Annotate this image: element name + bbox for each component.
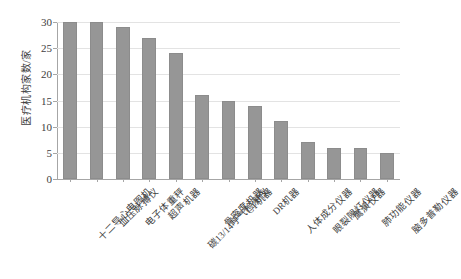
x-axis-tick-mark xyxy=(334,179,335,182)
bar[interactable] xyxy=(222,101,236,180)
x-axis-category-label: 十二导心电图机 xyxy=(97,186,154,243)
x-axis-category-label: 超声机器 xyxy=(167,186,203,222)
bar[interactable] xyxy=(274,121,288,179)
x-axis-tick-mark xyxy=(123,179,124,182)
y-axis-tick-label: 10 xyxy=(28,122,52,133)
x-axis-category-label: 骨密度机器 xyxy=(223,186,266,229)
gridline xyxy=(57,74,400,75)
y-axis-tick-mark xyxy=(53,127,57,128)
x-axis-category-label: 鹰演仪器 xyxy=(352,186,388,222)
plot-area xyxy=(57,22,400,179)
bar[interactable] xyxy=(63,22,77,179)
y-axis-tick-label: 15 xyxy=(28,96,52,107)
y-axis-tick-label: 25 xyxy=(28,43,52,54)
x-axis-tick-marks xyxy=(57,179,400,183)
bar[interactable] xyxy=(116,27,130,179)
x-axis-tick-mark xyxy=(70,179,71,182)
bar[interactable] xyxy=(142,38,156,179)
x-axis-tick-mark xyxy=(308,179,309,182)
bar[interactable] xyxy=(327,148,341,179)
x-axis-tick-mark xyxy=(229,179,230,182)
bar[interactable] xyxy=(301,142,315,179)
bar[interactable] xyxy=(169,53,183,179)
y-axis-tick-label: 20 xyxy=(28,69,52,80)
y-axis-tick-mark xyxy=(53,74,57,75)
x-axis-tick-mark xyxy=(97,179,98,182)
bar[interactable] xyxy=(380,153,394,179)
x-axis-tick-mark xyxy=(255,179,256,182)
x-axis-category-label: 电子体重秤 xyxy=(144,186,187,229)
y-axis-tick-mark xyxy=(53,153,57,154)
x-axis-tick-mark xyxy=(202,179,203,182)
x-axis-tick-mark xyxy=(149,179,150,182)
y-axis-tick-mark xyxy=(53,101,57,102)
x-axis-category-label: 脑多普勒仪器 xyxy=(410,186,460,236)
x-axis-category-label: 碳13/14呼气检测仪 xyxy=(206,186,272,252)
x-axis-category-label: CT机器 xyxy=(244,186,275,217)
x-axis-tick-mark xyxy=(176,179,177,182)
y-axis-tick-label: 30 xyxy=(28,17,52,28)
y-axis-tick-mark xyxy=(53,22,57,23)
y-axis-tick-labels: 302520151050 xyxy=(26,0,52,279)
gridline xyxy=(57,22,400,23)
y-axis-tick-label: 5 xyxy=(28,148,52,159)
bar[interactable] xyxy=(354,148,368,179)
x-axis-category-label: 血压脉搏仪 xyxy=(117,186,160,229)
x-axis-category-label: 肺功能仪器 xyxy=(381,186,424,229)
bar[interactable] xyxy=(248,106,262,179)
bar[interactable] xyxy=(195,95,209,179)
x-axis-category-label: DR机器 xyxy=(271,186,302,217)
y-axis-tick-mark xyxy=(53,48,57,49)
gridline xyxy=(57,48,400,49)
x-axis-tick-mark xyxy=(360,179,361,182)
y-axis-tick-label: 0 xyxy=(28,174,52,185)
x-axis-tick-mark xyxy=(387,179,388,182)
x-axis-category-label: 人体成分仪器 xyxy=(305,186,355,236)
x-axis-tick-mark xyxy=(281,179,282,182)
x-axis-category-label: 眼裂隙灯仪器 xyxy=(331,186,381,236)
bar[interactable] xyxy=(90,22,104,179)
